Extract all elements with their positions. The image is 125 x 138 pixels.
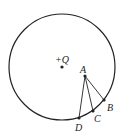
charge-dot	[60, 65, 63, 68]
label-a: A	[79, 64, 87, 75]
charge-label: +Q	[55, 54, 70, 65]
label-b: B	[107, 102, 113, 113]
point-b	[102, 98, 105, 101]
point-d	[77, 116, 80, 119]
label-d: D	[74, 122, 83, 133]
diagram: +Q A B C D	[0, 0, 125, 138]
segment-ad	[79, 76, 85, 118]
label-c: C	[94, 113, 101, 124]
